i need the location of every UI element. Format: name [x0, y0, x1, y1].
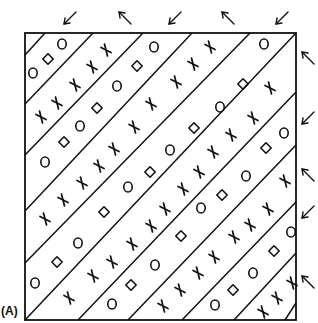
circle-symbol [150, 42, 158, 52]
cross-symbol [280, 175, 290, 187]
cross-symbol [40, 213, 50, 225]
diamond-symbol [132, 61, 142, 71]
cross-symbol [87, 61, 97, 73]
cross-symbol [88, 270, 98, 282]
circle-symbol [197, 203, 205, 213]
circle-symbol [58, 39, 66, 49]
arrow-up-left-icon [302, 52, 314, 64]
cross-symbol [272, 292, 282, 304]
circle-symbol [211, 300, 219, 310]
diamond-symbol [52, 257, 62, 267]
arrow-up-left-icon [302, 276, 314, 288]
band-boundary-line [25, 33, 192, 211]
circle-symbol [108, 299, 116, 309]
cross-symbol [158, 300, 168, 312]
cross-symbol [109, 143, 119, 155]
cross-symbol [193, 267, 203, 279]
circle-symbol [287, 227, 295, 237]
circle-symbol [216, 102, 224, 112]
circle-symbol [41, 157, 49, 167]
pattern-symbols [29, 39, 297, 318]
banded-pattern-diagram [0, 0, 318, 323]
diamond-symbol [99, 207, 109, 217]
band-boundary-line [128, 145, 296, 320]
cross-symbol [263, 203, 273, 215]
cross-symbol [146, 220, 156, 232]
circle-symbol [151, 260, 159, 270]
cross-symbol [209, 251, 219, 263]
arrow-up-left-icon [222, 12, 234, 24]
diamond-symbol [238, 79, 248, 89]
cross-symbol [36, 111, 46, 123]
cross-symbol [178, 183, 188, 195]
cross-symbol [226, 129, 236, 141]
cross-symbol [58, 194, 68, 206]
cross-symbol [194, 166, 204, 178]
circle-symbol [280, 128, 288, 138]
diamond-symbol [217, 190, 227, 200]
diamond-symbol [59, 137, 69, 147]
circle-symbol [249, 268, 257, 278]
diamond-symbol [269, 246, 279, 256]
circle-symbol [242, 171, 250, 181]
band-boundary-line [234, 253, 296, 320]
cross-symbol [188, 58, 198, 70]
diamond-symbol [92, 103, 102, 113]
diamond-symbol [228, 285, 238, 295]
cross-symbol [258, 306, 268, 318]
arrow-down-left-icon [64, 12, 76, 24]
arrow-down-left-icon [302, 112, 314, 124]
circle-symbol [113, 81, 121, 91]
diamond-symbol [43, 54, 53, 64]
cross-symbol [146, 98, 156, 110]
cross-symbol [77, 177, 87, 189]
cross-symbol [160, 203, 170, 215]
cross-symbol [229, 231, 239, 243]
cross-symbol [107, 256, 117, 268]
diamond-symbol [145, 167, 155, 177]
cross-symbol [245, 219, 255, 231]
cross-symbol [52, 97, 62, 109]
circle-symbol [124, 182, 132, 192]
arrow-down-left-icon [169, 12, 181, 24]
cross-symbol [129, 121, 139, 133]
arrow-up-left-icon [119, 12, 131, 24]
cross-symbol [101, 44, 111, 56]
arrow-down-left-icon [302, 206, 314, 218]
band-boundary-line [25, 33, 143, 155]
diamond-symbol [176, 231, 186, 241]
arrow-up-left-icon [302, 169, 314, 181]
cross-symbol [64, 292, 74, 304]
arrow-down-left-icon [276, 12, 288, 24]
circle-symbol [76, 121, 84, 131]
circle-symbol [31, 278, 39, 288]
cross-symbol [205, 41, 215, 53]
circle-symbol [29, 68, 37, 78]
diamond-symbol [126, 280, 136, 290]
cross-symbol [265, 82, 275, 94]
diamond-symbol [189, 123, 199, 133]
cross-symbol [248, 112, 258, 124]
cross-symbol [208, 146, 218, 158]
cross-symbol [70, 79, 80, 91]
circle-symbol [260, 39, 268, 49]
band-boundary-line [25, 33, 45, 55]
cross-symbol [171, 76, 181, 88]
cross-symbol [175, 284, 185, 296]
cross-symbol [94, 160, 104, 172]
cross-symbol [127, 238, 137, 250]
circle-symbol [166, 145, 174, 155]
circle-symbol [74, 238, 82, 248]
diamond-symbol [261, 143, 271, 153]
band-boundary-line [285, 303, 296, 320]
